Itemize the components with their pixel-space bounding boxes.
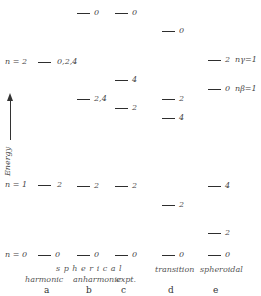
level-line	[77, 13, 90, 14]
level-line	[115, 80, 128, 81]
n2-label: n = 2	[5, 58, 27, 66]
level-label: 2	[94, 182, 99, 190]
level-label: 0	[132, 9, 137, 17]
level-label: 0	[225, 85, 230, 93]
level-line	[162, 255, 175, 256]
level-label: 0	[225, 251, 230, 259]
level-line	[208, 233, 221, 234]
level-line	[38, 62, 51, 63]
caption-transition: transition	[155, 265, 194, 274]
level-line	[162, 118, 175, 119]
level-line	[208, 186, 221, 187]
energy-axis-label: Energy	[3, 147, 12, 176]
ngamma-label: nγ=1	[235, 56, 257, 64]
letter-d: d	[168, 285, 174, 295]
level-label: 4	[179, 114, 184, 122]
level-line	[162, 99, 175, 100]
level-line	[77, 99, 90, 100]
letter-c: c	[121, 285, 126, 295]
level-label: 2,4	[94, 95, 107, 103]
level-label: 4	[225, 182, 230, 190]
caption-expt: expt.	[116, 275, 136, 284]
level-label: 4	[132, 76, 137, 84]
level-line	[115, 108, 128, 109]
level-label: 0	[132, 251, 137, 259]
level-label: 2	[132, 104, 137, 112]
level-label: 0	[55, 251, 60, 259]
level-label: 0	[179, 251, 184, 259]
level-line	[208, 60, 221, 61]
letter-b: b	[86, 285, 92, 295]
level-line	[208, 255, 221, 256]
level-line	[162, 205, 175, 206]
caption-harmonic: harmonic	[25, 275, 63, 284]
letter-e: e	[213, 285, 218, 295]
level-label: 0	[94, 9, 99, 17]
level-line	[115, 13, 128, 14]
level-line	[38, 255, 51, 256]
level-label: 2	[225, 229, 230, 237]
level-line	[162, 31, 175, 32]
n0-label: n = 0	[5, 251, 27, 259]
spherical-group-caption: s p h e r i c a l	[56, 264, 122, 273]
level-line	[38, 185, 51, 186]
level-line	[115, 186, 128, 187]
caption-anharmonic: anharmonic	[73, 275, 121, 284]
level-line	[115, 255, 128, 256]
caption-spheroidal: spheroidal	[200, 265, 243, 274]
level-label: 2	[225, 56, 230, 64]
level-label: 2	[179, 95, 184, 103]
level-label: 0	[179, 27, 184, 35]
level-line	[208, 89, 221, 90]
letter-a: a	[44, 285, 49, 295]
level-label: 2	[132, 182, 137, 190]
n1-label: n = 1	[5, 181, 27, 189]
level-label: 0	[94, 251, 99, 259]
level-label: 2	[179, 201, 184, 209]
nbeta-label: nβ=1	[235, 85, 257, 93]
level-line	[77, 186, 90, 187]
energy-arrow-icon	[10, 100, 11, 140]
level-line	[77, 255, 90, 256]
level-label: 2	[57, 181, 62, 189]
level-label: 0,2,4	[57, 58, 77, 66]
